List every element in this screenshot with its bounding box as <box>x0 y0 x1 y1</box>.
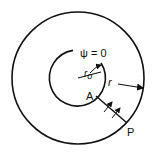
psi-label: ψ = 0 <box>80 47 107 59</box>
point-p-label: P <box>127 126 134 138</box>
a-to-p-line <box>96 96 127 123</box>
r-label: r <box>108 76 113 88</box>
r-arrow <box>118 84 143 88</box>
r0-label: ro <box>84 68 92 81</box>
annulus-diagram: ψ = 0 ro r A P <box>0 0 153 156</box>
point-a-label: A <box>86 90 94 102</box>
